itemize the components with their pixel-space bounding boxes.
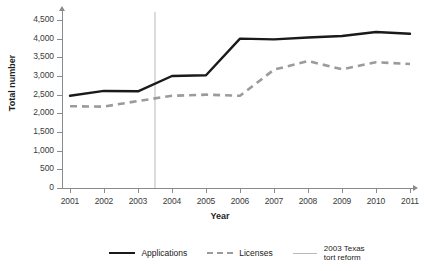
x-axis-tick [410, 188, 411, 193]
chart-legend: Applications Licenses 2003 Texas tort re… [62, 240, 412, 266]
y-axis-tick [57, 95, 62, 96]
y-axis-tick [57, 132, 62, 133]
series-line-applications [70, 32, 410, 96]
y-axis-tick [57, 76, 62, 77]
y-axis-tick [57, 57, 62, 58]
x-axis-tick [104, 188, 105, 193]
x-axis-tick [274, 188, 275, 193]
y-axis-tick [57, 39, 62, 40]
legend-item-tort-reform[interactable]: 2003 Texas tort reform [293, 244, 365, 263]
x-axis-tick [376, 188, 377, 193]
x-axis-tick [240, 188, 241, 193]
thin-line-swatch-icon [293, 253, 317, 254]
x-axis-tick [342, 188, 343, 193]
x-axis-tick [206, 188, 207, 193]
y-axis-tick [57, 151, 62, 152]
y-axis-tick [57, 169, 62, 170]
legend-item-licenses[interactable]: Licenses [207, 248, 273, 258]
dashed-line-swatch-icon [207, 252, 233, 254]
solid-line-swatch-icon [109, 252, 135, 255]
y-axis-tick [57, 188, 62, 189]
series-line-licenses [70, 61, 410, 107]
legend-label-tort-reform: 2003 Texas tort reform [324, 244, 365, 263]
x-axis-tick [138, 188, 139, 193]
y-axis-tick [57, 20, 62, 21]
x-axis-tick [308, 188, 309, 193]
chart-series-canvas [0, 0, 430, 271]
legend-label-licenses: Licenses [239, 248, 273, 258]
legend-label-applications: Applications [141, 248, 187, 258]
y-axis-tick [57, 113, 62, 114]
legend-item-applications[interactable]: Applications [109, 248, 187, 258]
x-axis-tick [70, 188, 71, 193]
x-axis-tick [172, 188, 173, 193]
chart-figure: 05001,0001,5002,0002,5003,0003,5004,0004… [0, 0, 430, 271]
